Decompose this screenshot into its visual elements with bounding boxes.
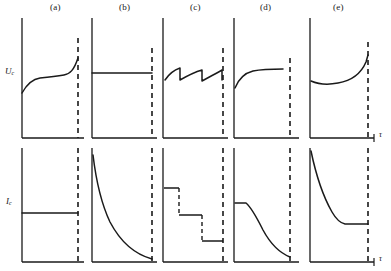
panel-d-voltage-curve — [235, 69, 283, 88]
panel-label-a: (a) — [50, 2, 61, 12]
panel-label-e: (e) — [333, 2, 344, 12]
panel-c-voltage-curve — [165, 68, 222, 81]
panel-e — [310, 18, 374, 262]
plot-canvas — [0, 0, 391, 271]
y-axis-label-voltage-subscript: c — [12, 70, 15, 76]
x-axis-label-tau-bottom: τ — [379, 254, 382, 263]
y-axis-label-current-subscript: c — [9, 200, 12, 206]
panel-label-d: (d) — [260, 2, 271, 12]
waveform-figure: (a) (b) (c) (d) (e) Uc Ic τ τ — [0, 0, 391, 271]
panel-c — [163, 18, 228, 262]
panel-label-c: (c) — [190, 2, 201, 12]
panel-d — [234, 18, 299, 262]
y-axis-label-current: Ic — [6, 196, 12, 206]
y-axis-label-voltage: Uc — [5, 66, 14, 76]
panel-d-current-curve — [235, 203, 290, 257]
panel-b-current-curve — [93, 155, 152, 259]
panel-e-current-curve — [311, 151, 368, 224]
panel-b — [92, 18, 157, 262]
panel-a-voltage-curve — [22, 58, 78, 93]
panel-e-voltage-curve — [311, 55, 368, 84]
panel-label-b: (b) — [119, 2, 130, 12]
panel-a — [22, 18, 84, 262]
x-axis-label-tau-top: τ — [379, 130, 382, 139]
